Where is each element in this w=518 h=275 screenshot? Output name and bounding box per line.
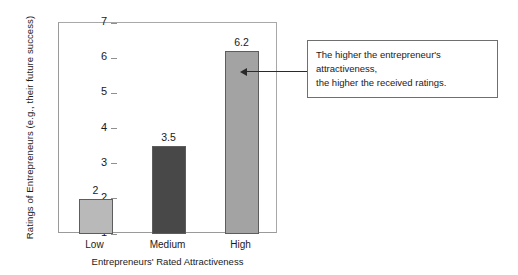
bar-low [79, 199, 113, 234]
y-tick-label: 6 [89, 50, 107, 62]
bar-chart-figure: Ratings of Entrepreneurs (e.g., their fu… [0, 0, 518, 275]
arrow-shaft [246, 71, 307, 72]
y-tick-mark [111, 163, 117, 164]
x-category-high: High [211, 239, 271, 250]
bar-value-high: 6.2 [217, 36, 267, 48]
bar-value-low: 2 [71, 184, 121, 196]
y-tick-label: 7 [89, 15, 107, 27]
x-axis-title: Entrepreneurs' Rated Attractiveness [58, 256, 277, 267]
plot-area: 1234567 23.56.2 [58, 22, 277, 233]
annotation-arrow-icon [240, 67, 307, 76]
bar-high [225, 51, 259, 234]
bar-medium [152, 146, 186, 234]
y-tick-mark [111, 58, 117, 59]
bar-value-medium: 3.5 [144, 131, 194, 143]
annotation-line-2: the higher the received ratings. [316, 76, 489, 90]
y-axis-title: Ratings of Entrepreneurs (e.g., their fu… [24, 13, 35, 243]
y-tick-mark [111, 93, 117, 94]
x-category-medium: Medium [138, 239, 198, 250]
y-tick-label: 5 [89, 85, 107, 97]
y-tick-label: 3 [89, 156, 107, 168]
y-tick-mark [111, 23, 117, 24]
annotation-callout: The higher the entrepreneur's attractive… [307, 40, 498, 98]
y-tick-label: 4 [89, 121, 107, 133]
annotation-line-1: The higher the entrepreneur's attractive… [316, 48, 489, 76]
x-category-low: Low [65, 239, 125, 250]
y-tick-mark [111, 128, 117, 129]
